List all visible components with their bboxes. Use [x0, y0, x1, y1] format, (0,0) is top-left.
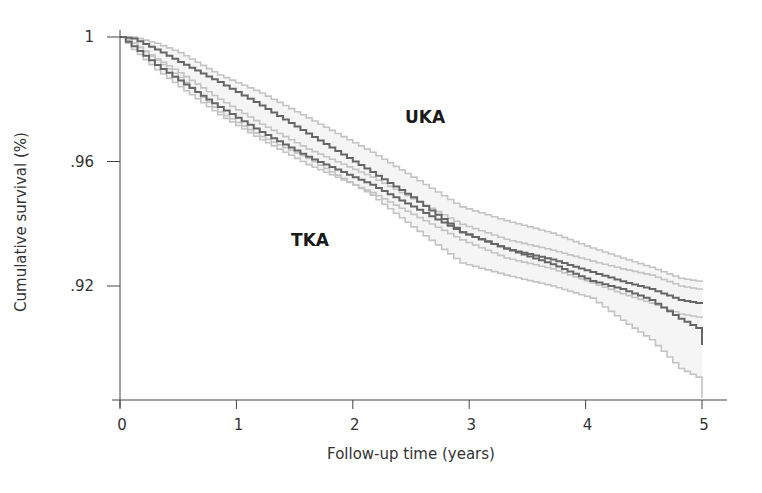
x-tick-label: 5 [699, 416, 709, 434]
x-tick-label: 3 [466, 416, 476, 434]
axes: 012345 1.96.92 [70, 28, 727, 434]
y-tick-label: .92 [70, 277, 94, 295]
x-tick-label: 0 [117, 416, 127, 434]
y-tick-label: .96 [70, 153, 94, 171]
x-tick-label: 1 [234, 416, 244, 434]
y-tick-label: 1 [84, 28, 94, 46]
y-axis-title: Cumulative survival (%) [12, 132, 30, 312]
x-tick-label: 2 [350, 416, 360, 434]
x-tick-label: 4 [583, 416, 593, 434]
uka-label: UKA [405, 107, 446, 127]
tka-label: TKA [291, 230, 330, 250]
x-axis-title: Follow-up time (years) [327, 445, 495, 463]
y-axis-ticks: 1.96.92 [70, 28, 120, 295]
x-axis-ticks: 012345 [117, 400, 709, 434]
survival-chart: 012345 1.96.92 Follow-up time (years) Cu… [0, 0, 762, 493]
